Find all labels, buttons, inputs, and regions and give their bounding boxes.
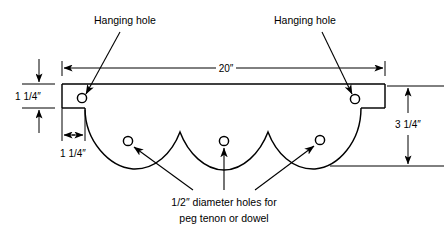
dim-overall-width-text: 20″ xyxy=(219,63,234,74)
label-peg-holes-line2: peg tenon or dowel xyxy=(179,212,268,224)
hanging-hole-left-circle xyxy=(77,93,86,102)
label-hanging-hole-right: Hanging hole xyxy=(274,14,336,26)
peg-hole-left-circle xyxy=(123,136,132,145)
peg-hole-center-circle xyxy=(219,136,228,145)
dim-notch-width-text: 1 1/4″ xyxy=(60,148,86,159)
dim-overall-height-text: 3 1/4″ xyxy=(395,119,421,130)
label-hanging-hole-left: Hanging hole xyxy=(94,14,156,26)
technical-drawing-canvas: 20″ 1 1/4″ 1 1/4″ xyxy=(0,0,444,238)
drawing-svg: 20″ 1 1/4″ 1 1/4″ xyxy=(0,0,444,238)
hanging-hole-right-circle xyxy=(350,94,359,103)
dim-board-thickness-text: 1 1/4″ xyxy=(15,91,41,102)
peg-hole-right-circle xyxy=(315,135,324,144)
label-peg-holes-line1: 1/2″ diameter holes for xyxy=(171,196,277,208)
